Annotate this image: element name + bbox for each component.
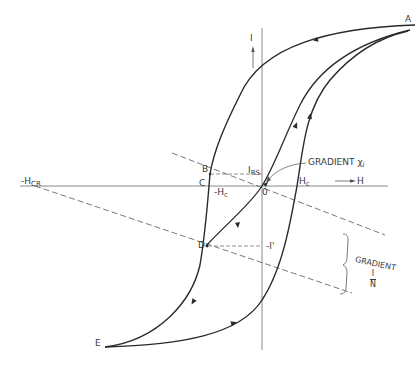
i-rs-label: IRS — [248, 166, 260, 177]
gradient-n-fraction: I N — [370, 270, 376, 289]
gradient-n-brace — [340, 234, 348, 294]
i-axis-arrow-icon — [251, 46, 254, 68]
h-axis-label: H — [357, 177, 364, 186]
gradient-n-num: I — [370, 270, 376, 280]
recoil-curve — [206, 30, 410, 246]
hc-pos-main: H — [299, 176, 306, 186]
load-line — [35, 186, 352, 293]
hc-positive-label: Hc — [299, 177, 310, 188]
arrow-recoil-up-icon — [293, 121, 300, 128]
point-e-label: E — [95, 339, 101, 348]
gradient-chi-text: GRADIENT χ — [308, 157, 363, 167]
h-axis-arrow-icon — [335, 179, 356, 182]
gradient-chi-sub: i — [363, 161, 365, 169]
point-c-label: C — [199, 179, 205, 188]
hc-neg-main: -H — [214, 187, 224, 197]
hcr-label: -HCR — [21, 177, 41, 188]
hc-pos-sub: c — [306, 180, 310, 188]
hc-neg-sub: c — [224, 191, 228, 199]
gradient-chi-label: GRADIENT χi — [308, 158, 365, 169]
i-rs-sub: RS — [251, 169, 260, 177]
point-b-marker — [209, 173, 211, 175]
point-d-label: D — [198, 241, 205, 250]
hysteresis-diagram — [0, 0, 416, 367]
arrow-descending-down-icon — [189, 298, 196, 306]
point-a-label: A — [405, 15, 411, 24]
hcr-main: -H — [21, 176, 31, 186]
gradient-n-den: N — [370, 280, 376, 289]
ascending-branch — [105, 31, 408, 347]
origin-label: 0 — [262, 188, 268, 197]
i-prime-label: -I' — [266, 242, 274, 251]
hcr-sub: CR — [31, 180, 41, 188]
hc-negative-label: -Hc — [214, 188, 228, 199]
point-d-marker — [206, 245, 209, 248]
i-axis-label: I — [250, 34, 253, 43]
arrow-recoil-down-icon — [235, 222, 240, 228]
point-b-label: B — [202, 165, 208, 174]
